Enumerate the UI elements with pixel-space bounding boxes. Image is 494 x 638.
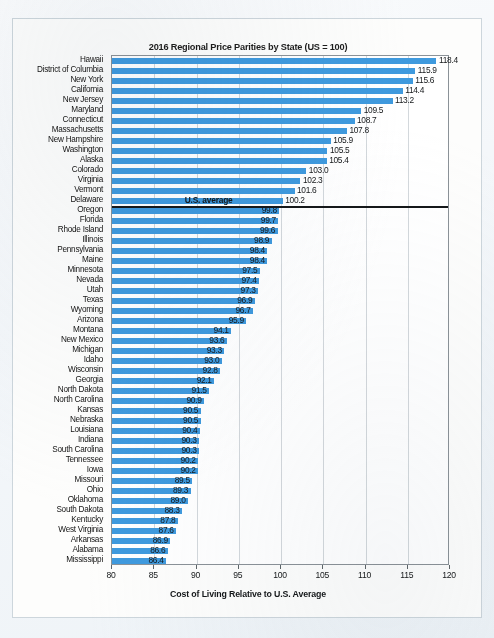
bar[interactable] (112, 208, 279, 215)
y-axis-label: Illinois (82, 235, 103, 245)
bar[interactable] (112, 318, 246, 325)
bar-row[interactable]: 98.9 (112, 236, 448, 246)
bar-row[interactable]: 98.4 (112, 256, 448, 266)
y-axis-label: Wyoming (71, 305, 103, 315)
y-axis-label: Virginia (78, 175, 103, 185)
bar-row[interactable]: 115.6 (112, 76, 448, 86)
bar[interactable] (112, 78, 413, 85)
bar-row[interactable]: 101.6 (112, 186, 448, 196)
bar-row[interactable]: 89.3 (112, 486, 448, 496)
bar-row[interactable]: 90.3 (112, 436, 448, 446)
bar[interactable] (112, 68, 415, 75)
bar[interactable] (112, 228, 278, 235)
y-axis-label: New Hampshire (48, 135, 103, 145)
bar[interactable] (112, 188, 295, 195)
bar-row[interactable]: 107.8 (112, 126, 448, 136)
bar-row[interactable]: 90.3 (112, 446, 448, 456)
bar-row[interactable]: 96.7 (112, 306, 448, 316)
bar-row[interactable]: 96.9 (112, 296, 448, 306)
bar-value-label: 90.5 (183, 405, 198, 415)
bar[interactable] (112, 158, 327, 165)
bar[interactable] (112, 108, 361, 115)
y-axis-label: West Virginia (58, 525, 103, 535)
bar-value-label: 93.0 (204, 355, 219, 365)
bar-row[interactable]: 102.3 (112, 176, 448, 186)
y-axis-label: Montana (73, 325, 103, 335)
bar-value-label: 105.4 (329, 155, 348, 165)
bar-row[interactable]: 93.0 (112, 356, 448, 366)
bar[interactable] (112, 118, 355, 125)
bar-row[interactable]: 108.7 (112, 116, 448, 126)
y-axis-label: Hawaii (80, 55, 103, 65)
bar-value-label: 97.4 (241, 275, 256, 285)
bar[interactable] (112, 148, 327, 155)
bar[interactable] (112, 298, 255, 305)
bar-row[interactable]: 90.9 (112, 396, 448, 406)
y-axis-label: New Jersey (63, 95, 103, 105)
bar-value-label: 87.6 (159, 525, 174, 535)
bar[interactable] (112, 128, 347, 135)
bar-row[interactable]: 95.9 (112, 316, 448, 326)
bar-row[interactable]: 90.2 (112, 456, 448, 466)
bar-value-label: 100.2 (285, 195, 304, 205)
bar[interactable] (112, 268, 260, 275)
bar[interactable] (112, 308, 253, 315)
bar-row[interactable]: 99.6 (112, 226, 448, 236)
bar[interactable] (112, 168, 306, 175)
bar-row[interactable]: 94.1 (112, 326, 448, 336)
bar-rows: 118.4115.9115.6114.4113.2109.5108.7107.8… (112, 56, 448, 564)
bar[interactable] (112, 258, 267, 265)
bar-row[interactable]: 115.9 (112, 66, 448, 76)
bar-row[interactable]: 97.4 (112, 276, 448, 286)
y-axis-label: Tennessee (66, 455, 103, 465)
bar-row[interactable]: 93.6 (112, 336, 448, 346)
x-tick-mark-120 (449, 565, 450, 569)
bar-row[interactable]: 103.0 (112, 166, 448, 176)
bar-row[interactable]: 90.5 (112, 416, 448, 426)
bar-row[interactable]: 98.4 (112, 246, 448, 256)
bar[interactable] (112, 88, 403, 95)
bar[interactable] (112, 98, 393, 105)
bar[interactable] (112, 288, 258, 295)
x-axis-title: Cost of Living Relative to U.S. Average (13, 589, 483, 599)
bar-value-label: 118.4 (439, 55, 458, 65)
bar-row[interactable]: 109.5 (112, 106, 448, 116)
bar-row[interactable]: 92.1 (112, 376, 448, 386)
bar-row[interactable]: 91.5 (112, 386, 448, 396)
bar-row[interactable]: 89.5 (112, 476, 448, 486)
bar-row[interactable]: 105.9 (112, 136, 448, 146)
bar-value-label: 89.3 (173, 485, 188, 495)
bar[interactable] (112, 278, 259, 285)
y-axis-label: Nebraska (70, 415, 103, 425)
bar-value-label: 86.4 (148, 555, 163, 565)
bar[interactable] (112, 138, 331, 145)
bar[interactable] (112, 248, 267, 255)
bar-row[interactable]: 113.2 (112, 96, 448, 106)
bar[interactable] (112, 218, 278, 225)
bar-row[interactable]: 105.5 (112, 146, 448, 156)
bar-row[interactable]: 97.5 (112, 266, 448, 276)
y-axis-label: Ohio (87, 485, 103, 495)
chart-title: 2016 Regional Price Parities by State (U… (13, 42, 483, 52)
bar-row[interactable]: 100.2 (112, 196, 448, 206)
bar[interactable] (112, 238, 272, 245)
y-axis-label: Nevada (76, 275, 103, 285)
bar[interactable] (112, 58, 436, 65)
bar-row[interactable]: 90.2 (112, 466, 448, 476)
bar-row[interactable]: 105.4 (112, 156, 448, 166)
bar-row[interactable]: 99.7 (112, 216, 448, 226)
x-axis: 80859095100105110115120 (111, 565, 449, 585)
y-axis-label: California (71, 85, 103, 95)
bar-row[interactable]: 90.5 (112, 406, 448, 416)
bar-row[interactable]: 92.8 (112, 366, 448, 376)
y-axis-label: Oregon (77, 205, 103, 215)
bar-row[interactable]: 89.0 (112, 496, 448, 506)
bar-row[interactable]: 118.4 (112, 56, 448, 66)
bar[interactable] (112, 178, 300, 185)
bar-value-label: 90.2 (181, 465, 196, 475)
y-axis-label: Michigan (72, 345, 103, 355)
bar-row[interactable]: 93.3 (112, 346, 448, 356)
bar-row[interactable]: 90.4 (112, 426, 448, 436)
bar-value-label: 86.6 (150, 545, 165, 555)
bar-row[interactable]: 97.3 (112, 286, 448, 296)
